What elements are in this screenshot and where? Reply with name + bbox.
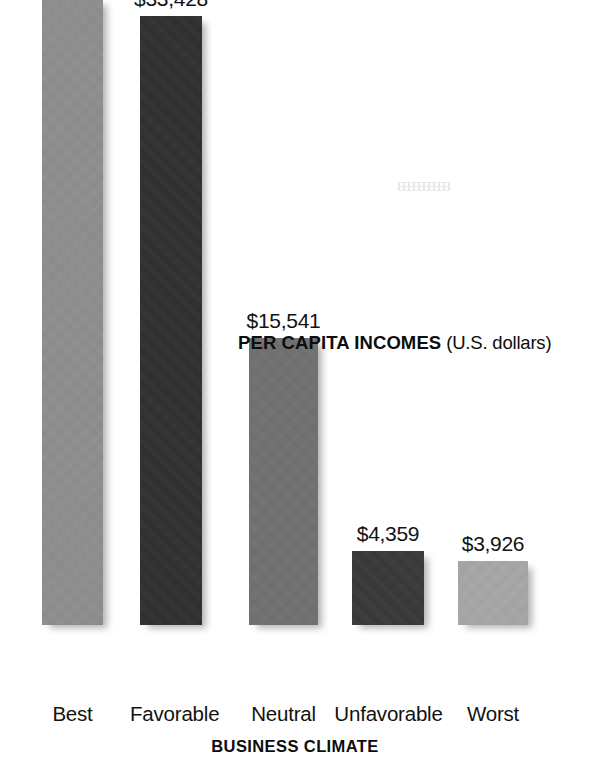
bar-value-label-favorable: $33,428 bbox=[134, 0, 208, 11]
bar-group-worst: $3,926 bbox=[458, 561, 528, 625]
bar-value-label-worst: $3,926 bbox=[462, 532, 524, 556]
category-label-favorable: Favorable bbox=[130, 702, 212, 726]
bar-value-label-neutral: $15,541 bbox=[247, 309, 321, 333]
category-label-neutral: Neutral bbox=[242, 702, 325, 726]
bar-group-unfavorable: $4,359 bbox=[352, 551, 424, 625]
bar-group-best: $40,253 bbox=[42, 0, 103, 625]
bar-chart: $40,253 Best $33,428 Favorable $15,541 N… bbox=[0, 0, 590, 772]
chart-title-main: PER CAPITA INCOMES bbox=[238, 332, 441, 353]
x-axis-title: BUSINESS CLIMATE bbox=[0, 737, 590, 756]
bar-value-label-unfavorable: $4,359 bbox=[357, 522, 419, 546]
chart-title: PER CAPITA INCOMES (U.S. dollars) bbox=[238, 332, 551, 354]
bar-unfavorable[interactable] bbox=[352, 551, 424, 625]
bar-best[interactable] bbox=[42, 0, 103, 625]
bar-neutral[interactable] bbox=[249, 338, 318, 625]
category-label-unfavorable: Unfavorable bbox=[330, 702, 447, 726]
chart-title-units-text: (U.S. dollars) bbox=[446, 332, 551, 353]
bar-favorable[interactable] bbox=[140, 16, 202, 625]
bar-group-neutral: $15,541 bbox=[249, 338, 318, 625]
bar-group-favorable: $33,428 bbox=[140, 16, 202, 625]
category-label-best: Best bbox=[42, 702, 103, 726]
bar-worst[interactable] bbox=[458, 561, 528, 625]
category-label-worst: Worst bbox=[458, 702, 528, 726]
